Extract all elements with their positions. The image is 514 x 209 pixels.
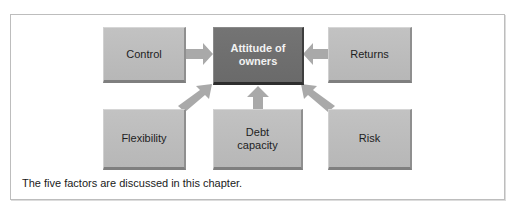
factor-label-line1: Debt [246, 126, 269, 138]
factor-box-risk: Risk [328, 109, 412, 170]
factor-box-flexibility: Flexibility [103, 109, 186, 170]
center-box-attitude-of-owners: Attitude of owners [213, 27, 304, 85]
factor-label: Control [126, 48, 161, 61]
factor-box-debt-capacity: Debt capacity [213, 109, 303, 170]
factor-label: Returns [350, 48, 389, 61]
factor-label-line2: capacity [237, 139, 277, 151]
center-label: Attitude of owners [231, 42, 286, 68]
center-label-line2: owners [239, 55, 278, 67]
factor-label: Risk [359, 132, 380, 145]
factor-box-returns: Returns [328, 27, 412, 83]
figure-caption: The five factors are discussed in this c… [22, 177, 242, 189]
factor-label: Flexibility [121, 132, 166, 145]
center-label-line1: Attitude of [231, 42, 286, 54]
factor-label: Debt capacity [237, 126, 277, 152]
factor-box-control: Control [103, 27, 186, 83]
